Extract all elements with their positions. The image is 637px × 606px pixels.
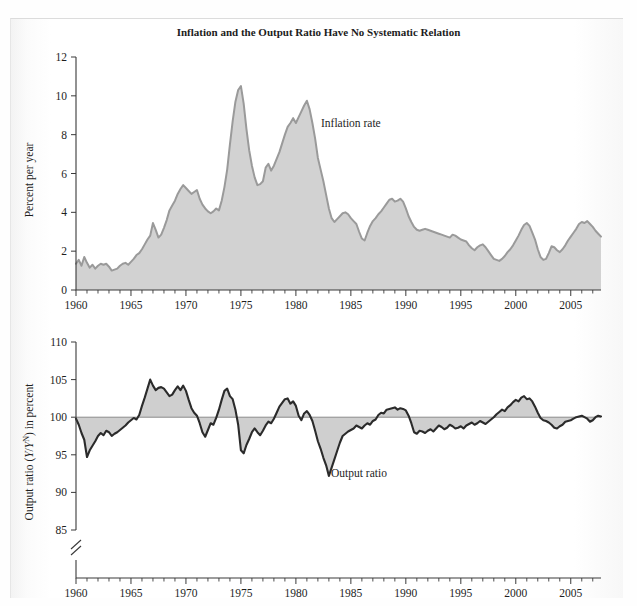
bottom-panel: 859095100105110 196019651970197519801985…: [22, 336, 602, 599]
bottom-y-tick-95: 95: [56, 449, 68, 461]
figure-root: Inflation and the Output Ratio Have No S…: [0, 0, 637, 606]
top-y-tick-6: 6: [61, 168, 67, 180]
top-y-tick-0: 0: [61, 284, 67, 296]
top-panel: 024681012 196019651970197519801985199019…: [23, 51, 601, 311]
top-y-tick-2: 2: [61, 245, 67, 257]
figure-title: Inflation and the Output Ratio Have No S…: [177, 26, 461, 38]
top-x-tick-1985: 1985: [339, 299, 362, 311]
top-x-tick-1995: 1995: [449, 299, 472, 311]
top-x-tick-labels: 1960196519701975198019851990199520002005: [65, 299, 583, 311]
ylabel-part-pre: Output ratio (: [23, 458, 36, 521]
top-x-tick-2005: 2005: [559, 299, 582, 311]
bottom-x-tick-1980: 1980: [284, 587, 307, 599]
bottom-y-tick-85: 85: [56, 524, 68, 536]
top-y-tick-labels: 024681012: [56, 51, 68, 296]
bottom-y-tick-105: 105: [50, 374, 68, 386]
bottom-x-tick-labels: 1960196519701975198019851990199520002005: [65, 587, 583, 599]
top-y-axis-label: Percent per year: [23, 142, 36, 217]
bottom-y-axis-label: Output ratio (Y/YN) in percent: [22, 383, 37, 521]
bottom-panel-axes: [71, 342, 601, 584]
top-y-tick-8: 8: [61, 129, 67, 141]
top-y-tick-12: 12: [56, 51, 68, 63]
bottom-y-tick-labels: 859095100105110: [50, 336, 68, 536]
output-ratio-series: [76, 380, 601, 476]
top-x-tick-2000: 2000: [504, 299, 527, 311]
bottom-x-tick-1975: 1975: [229, 587, 252, 599]
top-x-tick-1990: 1990: [394, 299, 417, 311]
bottom-x-tick-1990: 1990: [394, 587, 417, 599]
bottom-y-tick-100: 100: [50, 411, 68, 423]
top-x-tick-1970: 1970: [174, 299, 197, 311]
top-y-tick-4: 4: [61, 206, 67, 218]
bottom-y-tick-90: 90: [56, 486, 68, 498]
top-x-tick-1975: 1975: [229, 299, 252, 311]
top-x-tick-1965: 1965: [119, 299, 142, 311]
bottom-x-tick-1970: 1970: [174, 587, 197, 599]
top-x-tick-1980: 1980: [284, 299, 307, 311]
bottom-x-tick-1965: 1965: [119, 587, 142, 599]
top-x-tick-1960: 1960: [65, 299, 88, 311]
inflation-rate-annotation: Inflation rate: [321, 117, 381, 129]
bottom-x-tick-1985: 1985: [339, 587, 362, 599]
bottom-x-tick-2000: 2000: [504, 587, 527, 599]
top-y-tick-10: 10: [56, 90, 68, 102]
bottom-x-tick-1995: 1995: [449, 587, 472, 599]
bottom-x-tick-1960: 1960: [65, 587, 88, 599]
axis-break-icon: [71, 540, 81, 555]
bottom-y-tick-110: 110: [50, 336, 67, 348]
ylabel-part-post: ) in percent: [23, 383, 36, 436]
bottom-x-tick-2005: 2005: [559, 587, 582, 599]
page-background: Inflation and the Output Ratio Have No S…: [0, 0, 637, 606]
output-ratio-annotation: Output ratio: [331, 467, 387, 480]
output-ratio-area-fill: [76, 380, 601, 476]
